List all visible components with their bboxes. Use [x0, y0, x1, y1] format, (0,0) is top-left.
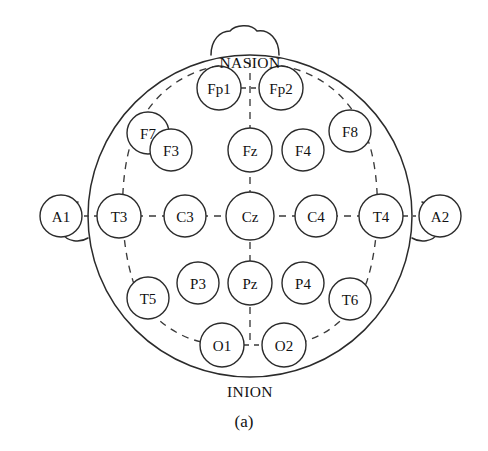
electrode-f3[interactable]: F3	[150, 129, 192, 171]
electrode-o2[interactable]: O2	[262, 323, 306, 367]
electrode-t5[interactable]: T5	[127, 277, 169, 319]
electrode-p4[interactable]: P4	[282, 262, 324, 304]
nose-icon	[211, 26, 279, 55]
electrode-label-f8: F8	[342, 124, 358, 140]
electrode-fz[interactable]: Fz	[228, 128, 272, 172]
electrode-label-f3: F3	[163, 143, 179, 159]
electrode-a1[interactable]: A1	[40, 195, 82, 237]
electrode-label-fp2: Fp2	[269, 81, 292, 97]
eeg-10-20-diagram: Fp1Fp2F7F3FzF4F8A1T3C3CzC4T4A2T5P3PzP4T6…	[0, 0, 488, 451]
electrode-label-p4: P4	[295, 276, 311, 292]
electrode-label-fp1: Fp1	[207, 81, 230, 97]
anatomy-label-inion: INION	[227, 383, 273, 400]
electrode-label-c3: C3	[176, 209, 194, 225]
electrode-label-pz: Pz	[243, 276, 258, 292]
anatomy-label-nasion: NASION	[220, 54, 281, 71]
electrode-f4[interactable]: F4	[282, 129, 324, 171]
electrode-f8[interactable]: F8	[329, 110, 371, 152]
electrode-label-o2: O2	[275, 338, 293, 354]
electrode-label-c4: C4	[307, 209, 325, 225]
electrode-t4[interactable]: T4	[359, 194, 403, 238]
electrode-fp1[interactable]: Fp1	[197, 66, 241, 110]
electrode-a2[interactable]: A2	[419, 195, 461, 237]
electrode-label-a2: A2	[431, 209, 449, 225]
eeg-electrode-placement-figure: Fp1Fp2F7F3FzF4F8A1T3C3CzC4T4A2T5P3PzP4T6…	[0, 0, 488, 451]
electrode-label-p3: P3	[190, 276, 206, 292]
electrode-label-cz: Cz	[242, 209, 259, 225]
electrode-cz[interactable]: Cz	[226, 192, 274, 240]
electrode-t3[interactable]: T3	[97, 194, 141, 238]
electrode-label-a1: A1	[52, 209, 70, 225]
electrode-label-t6: T6	[342, 292, 359, 308]
electrode-pz[interactable]: Pz	[228, 261, 272, 305]
electrode-label-o1: O1	[213, 338, 231, 354]
electrode-c4[interactable]: C4	[295, 195, 337, 237]
electrode-label-fz: Fz	[243, 143, 258, 159]
electrode-label-t3: T3	[111, 209, 128, 225]
electrode-fp2[interactable]: Fp2	[259, 66, 303, 110]
electrode-label-t4: T4	[373, 209, 390, 225]
electrode-t6[interactable]: T6	[329, 278, 371, 320]
figure-caption: (a)	[235, 412, 254, 431]
electrode-label-t5: T5	[140, 291, 157, 307]
electrode-label-f4: F4	[295, 143, 311, 159]
electrode-c3[interactable]: C3	[164, 195, 206, 237]
electrode-p3[interactable]: P3	[177, 262, 219, 304]
electrode-o1[interactable]: O1	[200, 323, 244, 367]
